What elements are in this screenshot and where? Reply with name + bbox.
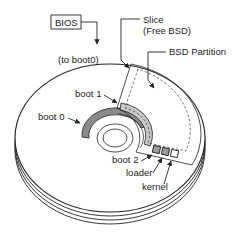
slice-label-line2: (Free BSD) — [143, 25, 191, 36]
boot-diagram: BIOS (to boot0) Slice (Free BSD) BSD Par… — [0, 0, 236, 234]
bsd-partition-label: BSD Partition — [169, 46, 226, 57]
slice-leader-arrow — [121, 19, 140, 68]
kernel-block — [170, 149, 178, 157]
boot1-label: boot 1 — [75, 88, 101, 99]
boot2-block — [152, 145, 160, 153]
loader-label: loader — [126, 167, 152, 178]
disk-platter-stack — [15, 64, 205, 224]
loader-block — [161, 147, 169, 155]
slice-label-line1: Slice — [143, 14, 164, 25]
platter-1-top — [15, 64, 205, 212]
bios-arrow — [81, 22, 97, 44]
bios-box: BIOS — [51, 15, 81, 29]
boot0-label: boot 0 — [38, 111, 64, 122]
to-boot0-label: (to boot0) — [58, 54, 99, 65]
diagram-canvas: BIOS (to boot0) Slice (Free BSD) BSD Par… — [0, 0, 236, 234]
bios-label: BIOS — [55, 17, 78, 28]
boot2-label: boot 2 — [112, 154, 138, 165]
